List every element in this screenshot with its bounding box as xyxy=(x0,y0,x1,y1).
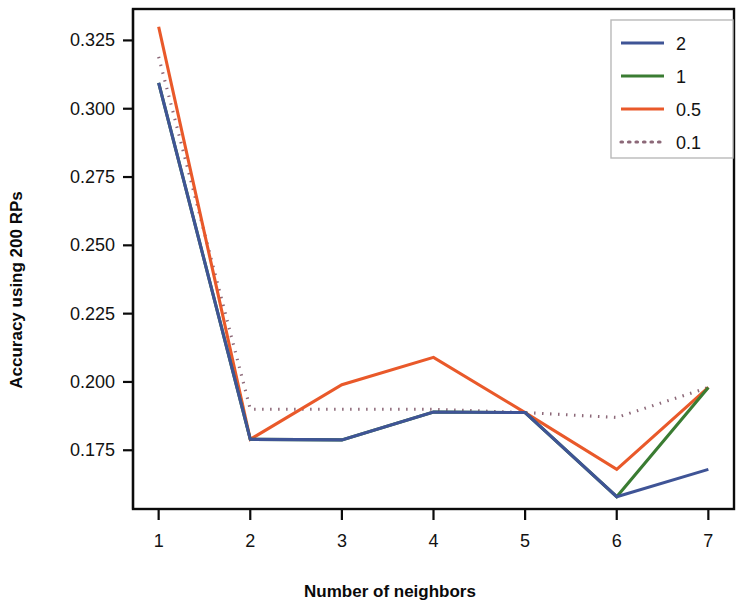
legend: 210.50.1 xyxy=(611,20,733,158)
legend-label-1: 1 xyxy=(676,67,686,87)
x-tick-label: 3 xyxy=(337,531,347,551)
y-tick-label: 0.250 xyxy=(70,235,115,255)
legend-box xyxy=(611,20,733,158)
y-tick-label: 0.275 xyxy=(70,167,115,187)
y-tick-label: 0.200 xyxy=(70,372,115,392)
x-tick-label: 6 xyxy=(612,531,622,551)
x-axis-title: Number of neighbors xyxy=(304,582,476,601)
x-tick-label: 4 xyxy=(428,531,438,551)
y-axis-title: Accuracy using 200 RPs xyxy=(7,191,26,388)
accuracy-vs-neighbors-chart: 0.1750.2000.2250.2500.2750.3000.325 1234… xyxy=(0,0,745,614)
x-tick-label: 5 xyxy=(520,531,530,551)
x-tick-label: 7 xyxy=(703,531,713,551)
x-tick-label: 2 xyxy=(245,531,255,551)
y-tick-label: 0.225 xyxy=(70,304,115,324)
y-tick-label: 0.175 xyxy=(70,440,115,460)
legend-label-2: 2 xyxy=(676,34,686,54)
legend-label-0-5: 0.5 xyxy=(676,100,701,120)
legend-label-0-1: 0.1 xyxy=(676,133,701,153)
x-tick-label: 1 xyxy=(154,531,164,551)
y-tick-label: 0.325 xyxy=(70,30,115,50)
y-tick-label: 0.300 xyxy=(70,99,115,119)
